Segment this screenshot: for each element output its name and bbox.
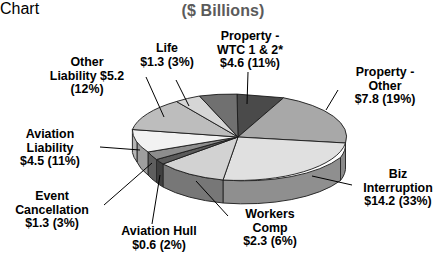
pie-chart-figure: ($ Billions) [0, 0, 446, 271]
label-event-cancellation: Event Cancellation $1.3 (3%) [0, 190, 104, 231]
label-event-cancellation-line1: Event [0, 190, 104, 204]
label-other-liability: Other Liability $5.2 (12%) [28, 56, 146, 97]
label-workers-comp-line3: $2.3 (6%) [222, 235, 318, 249]
label-property-other: Property - Other $7.8 (19%) [330, 66, 440, 107]
label-other-liability-line3: (12%) [28, 83, 146, 97]
label-other-liability-line2: Liability $5.2 [28, 70, 146, 84]
label-biz-interruption: Biz Interruption $14.2 (33%) [352, 168, 444, 209]
label-event-cancellation-line3: $1.3 (3%) [0, 217, 104, 231]
label-property-wtc: Property - WTC 1 & 2* $4.6 (11%) [198, 30, 302, 71]
label-biz-interruption-line3: $14.2 (33%) [352, 195, 444, 209]
label-property-wtc-line1: Property - [198, 30, 302, 44]
label-property-other-line3: $7.8 (19%) [330, 93, 440, 107]
label-workers-comp: Workers Comp $2.3 (6%) [222, 208, 318, 249]
label-other-liability-line1: Other [28, 56, 146, 70]
label-aviation-hull-line1: Aviation Hull [100, 225, 218, 239]
label-workers-comp-line1: Workers [222, 208, 318, 222]
label-aviation-liability-line2: Liability [2, 142, 98, 156]
label-property-other-line1: Property - [330, 66, 440, 80]
leader-line-event-cancellation [104, 163, 152, 205]
label-aviation-liability-line1: Aviation [2, 128, 98, 142]
label-life-line1: Life [130, 42, 204, 56]
label-biz-interruption-line2: Interruption [352, 182, 444, 196]
label-aviation-liability: Aviation Liability $4.5 (11%) [2, 128, 98, 169]
label-property-other-line2: Other [330, 80, 440, 94]
label-aviation-hull: Aviation Hull $0.6 (2%) [100, 225, 218, 252]
label-property-wtc-line2: WTC 1 & 2* [198, 44, 302, 58]
label-aviation-hull-line2: $0.6 (2%) [100, 239, 218, 253]
label-event-cancellation-line2: Cancellation [0, 204, 104, 218]
label-workers-comp-line2: Comp [222, 222, 318, 236]
label-aviation-liability-line3: $4.5 (11%) [2, 155, 98, 169]
label-property-wtc-line3: $4.6 (11%) [198, 57, 302, 71]
label-biz-interruption-line1: Biz [352, 168, 444, 182]
